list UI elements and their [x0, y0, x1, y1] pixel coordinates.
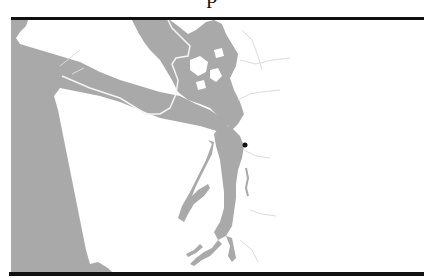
- city-marker[interactable]: [243, 143, 248, 148]
- frame-bottom-border: [9, 272, 424, 276]
- title-fragment: p: [0, 0, 424, 6]
- map-canvas[interactable]: [11, 20, 424, 272]
- lake-washington: [246, 168, 248, 196]
